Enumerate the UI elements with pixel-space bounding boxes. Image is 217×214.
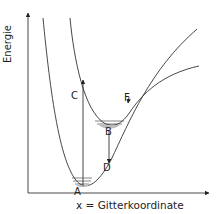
point-label-a: A <box>74 187 81 197</box>
point-label-b: B <box>105 127 112 137</box>
y-axis-label: Energie <box>2 25 13 63</box>
point-label-d: D <box>103 163 111 173</box>
excited-state-curve <box>70 18 199 125</box>
point-label-f: F <box>124 93 130 103</box>
x-axis-label: x = Gitterkoordinate <box>76 199 184 211</box>
ground-state-curve <box>43 18 197 186</box>
point-label-c: C <box>71 91 78 101</box>
configuration-coordinate-diagram <box>0 0 217 214</box>
